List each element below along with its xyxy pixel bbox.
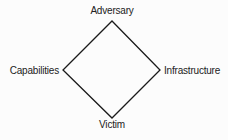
vertex-label-victim: Victim <box>0 119 224 131</box>
diamond-model-diagram: Adversary Capabilities Infrastructure Vi… <box>0 0 228 140</box>
vertex-label-capabilities: Capabilities <box>10 65 59 77</box>
diamond-outline <box>63 21 160 118</box>
vertex-label-adversary: Adversary <box>0 5 224 17</box>
vertex-label-infrastructure: Infrastructure <box>164 65 220 77</box>
